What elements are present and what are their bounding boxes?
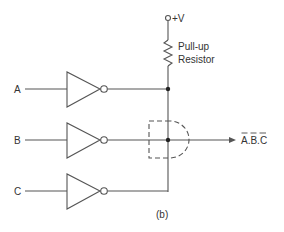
input-label-c: C	[14, 186, 21, 197]
input-label-b: B	[14, 135, 21, 146]
supply-terminal	[166, 16, 171, 21]
input-label-a: A	[14, 84, 21, 95]
junction-dot	[166, 138, 170, 142]
inverter-gate-c	[67, 174, 100, 209]
inverter-gate-a	[67, 72, 100, 107]
output-arrow-icon	[229, 137, 236, 143]
inverter-gate-b	[67, 123, 100, 158]
figure-caption: (b)	[156, 209, 168, 220]
wired-and-circuit-diagram: +V Pull-up Resistor A B C A.B.C (b)	[0, 0, 284, 232]
supply-label: +V	[172, 13, 185, 24]
resistor-label-line1: Pull-up	[178, 41, 210, 52]
junction-dot	[166, 87, 170, 91]
output-label: A.B.C	[241, 135, 267, 146]
resistor-label-line2: Resistor	[178, 54, 215, 65]
pull-up-resistor-icon	[164, 40, 172, 66]
